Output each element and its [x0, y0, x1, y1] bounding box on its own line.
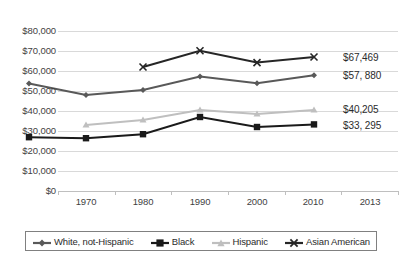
y-label-70000: $70,000 — [2, 46, 56, 56]
y-label-40000: $40,000 — [2, 106, 56, 116]
series-layer — [0, 0, 403, 200]
square-marker-icon — [150, 235, 170, 247]
y-label-20000: $20,000 — [2, 146, 56, 156]
x-label-1970: 1970 — [66, 196, 106, 208]
legend-item-hispanic[interactable]: Hispanic — [211, 235, 268, 247]
legend-label-black: Black — [172, 236, 194, 247]
x-label-2000: 2000 — [237, 196, 277, 208]
legend-item-black[interactable]: Black — [150, 235, 194, 247]
legend-label-hispanic: Hispanic — [233, 236, 268, 247]
x-label-2013: 2013 — [350, 196, 390, 208]
x-label-1990: 1990 — [180, 196, 220, 208]
series-white-not-hispanic — [26, 72, 317, 98]
legend-label-asian-american: Asian American — [306, 236, 370, 247]
y-label-0: $0 — [2, 186, 56, 196]
series-black — [26, 114, 317, 142]
value-label-asian-american: $67,469 — [343, 52, 378, 63]
legend-item-white-not-hispanic[interactable]: White, not-Hispanic — [32, 235, 134, 247]
y-label-30000: $30,000 — [2, 126, 56, 136]
y-label-80000: $80,000 — [2, 26, 56, 36]
y-label-60000: $60,000 — [2, 66, 56, 76]
legend-label-white-not-hispanic: White, not-Hispanic — [54, 236, 134, 247]
value-label-hispanic: $40,205 — [343, 104, 378, 115]
y-axis-labels: $80,000 $70,000 $60,000 $50,000 $40,000 … — [0, 0, 56, 200]
value-label-white-not-hispanic: $57, 880 — [343, 70, 381, 81]
x-label-1980: 1980 — [123, 196, 163, 208]
y-label-10000: $10,000 — [2, 166, 56, 176]
diamond-marker-icon — [32, 235, 52, 247]
triangle-marker-icon — [211, 235, 231, 247]
chart-legend: White, not-Hispanic Black Hispanic — [25, 231, 377, 251]
y-label-50000: $50,000 — [2, 86, 56, 96]
value-label-black: $33, 295 — [343, 120, 381, 131]
legend-item-asian-american[interactable]: Asian American — [284, 235, 370, 247]
x-axis-labels: 1970 1980 1990 2000 2010 2013 — [0, 196, 403, 214]
plot-area: $67,469 $57, 880 $40,205 $33, 295 $80,00… — [0, 0, 403, 200]
x-marker-icon — [284, 235, 304, 247]
line-chart: $67,469 $57, 880 $40,205 $33, 295 $80,00… — [0, 0, 403, 263]
series-asian-american — [140, 47, 318, 70]
x-label-2010: 2010 — [293, 196, 333, 208]
